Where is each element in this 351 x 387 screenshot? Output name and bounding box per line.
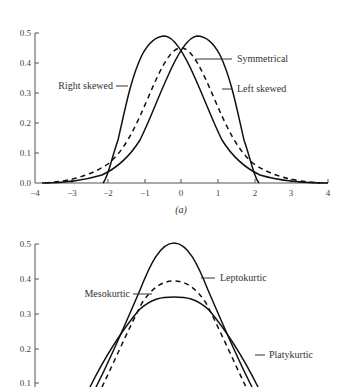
chart-top: 0.5 0.4 0.3 0.2 0.1 0.0 −4 −3 −2 −1 0 1 …: [20, 28, 331, 216]
x-ticks-top: −4 −3 −2 −1 0 1 2 3 4: [30, 179, 331, 198]
x-tick-label: 0: [179, 188, 184, 198]
y-tick-label: 0.3: [20, 309, 32, 319]
x-tick-label: −3: [67, 188, 77, 198]
y-ticks-bottom: 0.5 0.4 0.3 0.2 0.1: [20, 239, 39, 387]
figure: 0.5 0.4 0.3 0.2 0.1 0.0 −4 −3 −2 −1 0 1 …: [0, 0, 351, 387]
label-left-skewed: Left skewed: [237, 83, 286, 94]
label-platykurtic: Platykurtic: [269, 349, 313, 360]
y-tick-label: 0.1: [20, 148, 31, 158]
x-tick-label: −4: [30, 188, 40, 198]
x-tick-label: −1: [140, 188, 150, 198]
y-tick-label: 0.4: [20, 274, 32, 284]
label-mesokurtic: Mesokurtic: [84, 288, 130, 299]
label-right-skewed: Right skewed: [58, 80, 113, 91]
y-tick-label: 0.4: [20, 58, 32, 68]
x-tick-label: 3: [289, 188, 294, 198]
curve-platykurtic: [90, 297, 258, 387]
label-symmetrical: Symmetrical: [237, 53, 288, 64]
y-tick-label: 0.0: [20, 178, 32, 188]
y-tick-label: 0.5: [20, 28, 32, 38]
label-leptokurtic: Leptokurtic: [220, 272, 267, 283]
x-tick-label: 2: [253, 188, 258, 198]
curve-leptokurtic: [96, 243, 252, 387]
y-tick-label: 0.2: [20, 118, 31, 128]
x-tick-label: 1: [216, 188, 221, 198]
y-tick-label: 0.2: [20, 344, 31, 354]
curve-right-skewed: [103, 36, 328, 183]
x-tick-label: −2: [103, 188, 113, 198]
x-tick-label: 4: [326, 188, 331, 198]
curve-left-skewed: [42, 36, 259, 183]
chart-bottom: 0.5 0.4 0.3 0.2 0.1 Mesokurtic Leptokurt…: [20, 239, 314, 387]
y-tick-label: 0.5: [20, 239, 32, 249]
panel-label-a: (a): [175, 204, 187, 216]
y-ticks-top: 0.5 0.4 0.3 0.2 0.1 0.0: [20, 28, 39, 188]
curve-symmetrical: [45, 48, 320, 183]
y-tick-label: 0.1: [20, 378, 31, 387]
y-tick-label: 0.3: [20, 88, 32, 98]
